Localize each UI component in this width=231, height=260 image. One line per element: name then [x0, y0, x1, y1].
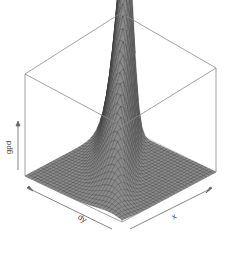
surface-plot — [0, 0, 231, 260]
z-axis-label: gpd — [4, 141, 13, 154]
